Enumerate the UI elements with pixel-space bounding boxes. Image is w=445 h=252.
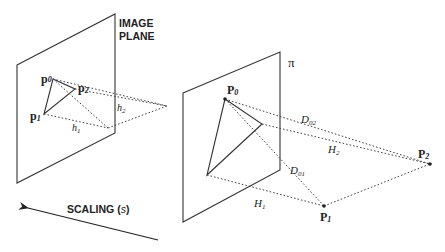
label-P2: P2 (418, 147, 429, 161)
label-p1: p1 (30, 109, 41, 123)
label-H2: H2 (327, 143, 340, 157)
scaling-label: SCALING (s) (67, 203, 129, 215)
image-plane-label-line2: PLANE (119, 30, 155, 42)
image-plane (17, 14, 115, 183)
label-D02: D02 (300, 113, 316, 127)
label-P0: P0 (227, 83, 238, 97)
label-D01: D01 (289, 164, 305, 178)
image-plane-dotted-lines (44, 79, 167, 128)
large-triangle (207, 99, 262, 175)
label-H1: H1 (253, 197, 265, 211)
label-p2: p2 (78, 81, 89, 95)
plane-pi (183, 52, 280, 222)
label-P1: P1 (320, 210, 331, 224)
point-P0 (223, 97, 227, 101)
label-h2: h2 (117, 102, 126, 115)
image-plane-label-line1: IMAGE (119, 17, 153, 29)
point-P1 (322, 204, 326, 208)
label-p0: p0 (41, 72, 52, 86)
scaling-diagram: IMAGE PLANE π p0 p2 p1 h2 h1 P0 P1 P2 D0… (0, 0, 445, 252)
world-dotted-lines (207, 99, 430, 206)
label-h1: h1 (72, 122, 81, 135)
point-P2 (428, 162, 432, 166)
plane-pi-label: π (288, 55, 295, 70)
